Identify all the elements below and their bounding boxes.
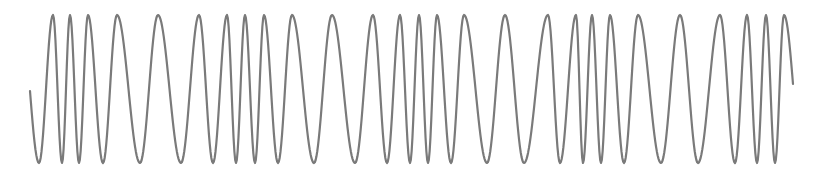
waveform-line <box>30 15 793 163</box>
fm-waveform-chart: Frequency-modulated sinusoid: a constant… <box>0 0 819 171</box>
waveform-plot <box>0 0 819 171</box>
